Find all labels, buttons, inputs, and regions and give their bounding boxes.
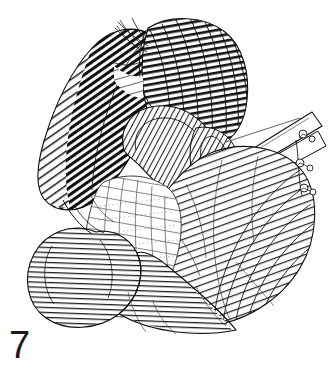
anatomical-figure: [0, 0, 336, 370]
anatomical-plate: 7: [0, 0, 336, 370]
figure-number: 7: [9, 326, 30, 364]
